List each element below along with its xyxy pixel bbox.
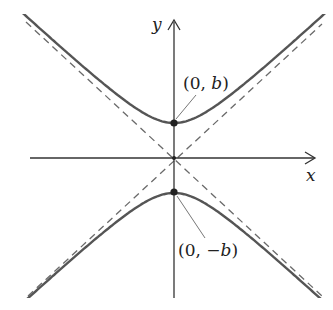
vertex-upper-point xyxy=(170,119,177,126)
vertex-lower-label: (0, −b) xyxy=(178,240,238,260)
vertex-upper-label: (0, b) xyxy=(183,73,229,93)
origin-point xyxy=(172,156,176,160)
y-axis-label: y xyxy=(151,14,162,34)
leader-line-upper xyxy=(176,95,196,119)
x-axis-label: x xyxy=(306,165,316,185)
vertex-lower-point xyxy=(170,188,177,195)
hyperbola-diagram: y x (0, b) (0, −b) xyxy=(0,0,333,310)
